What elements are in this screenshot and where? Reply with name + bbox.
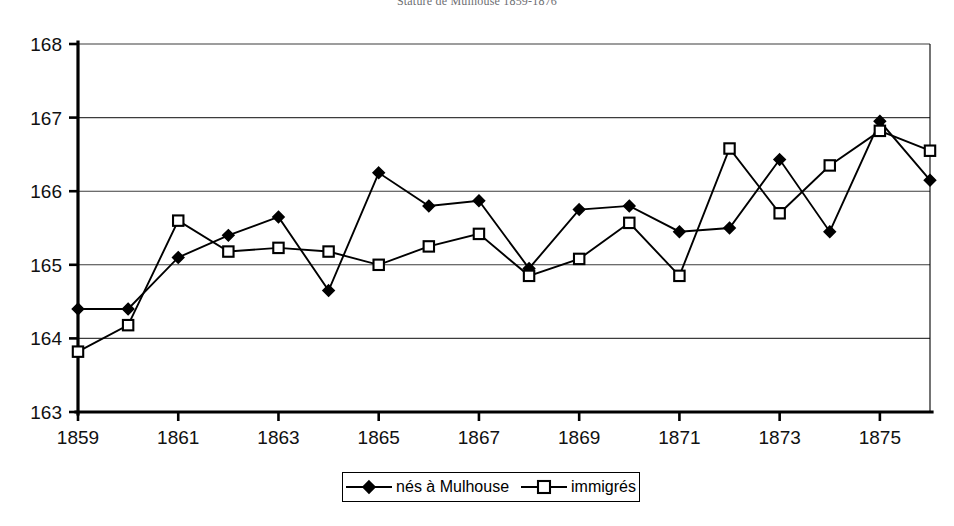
x-axis-tick-label: 1859 — [57, 427, 99, 448]
chart-legend: nés à Mulhouse immigrés — [342, 472, 640, 502]
data-point-marker — [424, 241, 434, 251]
legend-label-immigres: immigrés — [571, 478, 636, 496]
data-point-marker — [374, 260, 384, 270]
data-point-marker — [875, 126, 885, 136]
data-point-marker — [524, 271, 534, 281]
data-point-marker — [323, 246, 333, 256]
x-axis-tick-label: 1861 — [157, 427, 199, 448]
x-axis-tick-label: 1873 — [759, 427, 801, 448]
data-point-marker — [423, 200, 434, 211]
data-point-marker — [73, 346, 83, 356]
data-point-marker — [273, 211, 284, 222]
data-point-marker — [674, 226, 685, 237]
x-axis-tick-label: 1865 — [358, 427, 400, 448]
data-point-marker — [774, 208, 784, 218]
y-axis-tick-label: 165 — [30, 255, 62, 276]
data-point-marker — [223, 230, 234, 241]
data-point-marker — [674, 271, 684, 281]
data-point-marker — [123, 320, 133, 330]
x-axis-tick-label: 1871 — [658, 427, 700, 448]
data-point-marker — [373, 167, 384, 178]
data-point-marker — [574, 254, 584, 264]
data-point-marker — [825, 160, 835, 170]
line-chart-plot: 1631641651661671681859186118631865186718… — [0, 0, 954, 470]
data-point-marker — [72, 303, 83, 314]
data-point-marker — [273, 243, 283, 253]
data-point-marker — [323, 285, 334, 296]
x-axis-tick-label: 1875 — [859, 427, 901, 448]
data-point-marker — [223, 246, 233, 256]
x-axis-tick-label: 1867 — [458, 427, 500, 448]
y-axis-tick-label: 167 — [30, 108, 62, 129]
legend-entry-nes-a-mulhouse: nés à Mulhouse — [346, 478, 509, 496]
data-point-marker — [824, 226, 835, 237]
y-axis-tick-label: 168 — [30, 34, 62, 55]
y-axis-tick-label: 166 — [30, 181, 62, 202]
data-point-marker — [925, 146, 935, 156]
legend-entry-immigres: immigrés — [521, 478, 636, 496]
open-square-icon — [521, 479, 567, 495]
x-axis-tick-label: 1863 — [257, 427, 299, 448]
y-axis-tick-label: 164 — [30, 328, 62, 349]
series-line-1 — [78, 131, 930, 352]
data-point-marker — [474, 229, 484, 239]
y-axis-tick-label: 163 — [30, 402, 62, 423]
data-point-marker — [724, 143, 734, 153]
chart-container: Stature de Mulhouse 1859-1876 1631641651… — [0, 0, 954, 526]
series-line-0 — [78, 121, 930, 309]
x-axis-tick-label: 1869 — [558, 427, 600, 448]
data-point-marker — [624, 200, 635, 211]
data-point-marker — [173, 215, 183, 225]
filled-diamond-icon — [346, 479, 392, 495]
legend-label-nes-a-mulhouse: nés à Mulhouse — [396, 478, 509, 496]
data-point-marker — [624, 218, 634, 228]
